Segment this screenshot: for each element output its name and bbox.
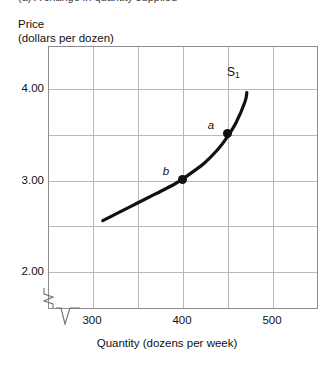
y-axis-tick-label: 4.00	[4, 82, 44, 94]
supply-curve-label: S1	[227, 65, 240, 79]
gridline-vertical	[273, 47, 274, 308]
x-axis-tick-label: 400	[160, 314, 204, 326]
y-axis-tick-label: 3.00	[4, 174, 44, 186]
x-axis-title: Quantity (dozens per week)	[0, 337, 334, 349]
gridline-horizontal	[49, 135, 317, 136]
supply-curve-label-letter: S	[227, 65, 235, 79]
gridline-vertical	[93, 47, 94, 308]
figure-caption-cropped: (a) A change in quantity supplied	[18, 0, 318, 7]
supply-curve-label-subscript: 1	[235, 70, 240, 80]
gridline-vertical	[138, 47, 139, 308]
data-point-label-b: b	[163, 165, 169, 177]
gridline-horizontal	[49, 272, 317, 273]
data-point-marker-b	[178, 175, 187, 184]
data-point-label-a: a	[208, 119, 214, 131]
y-axis-tick-labels: 4.003.002.00	[0, 0, 44, 369]
gridline-horizontal	[49, 89, 317, 90]
gridline-horizontal	[49, 226, 317, 227]
data-point-marker-a	[223, 129, 232, 138]
x-axis-tick-label: 500	[250, 314, 294, 326]
x-axis-tick-label: 300	[70, 314, 114, 326]
y-axis-tick-label: 2.00	[4, 265, 44, 277]
gridline-vertical	[228, 47, 229, 308]
